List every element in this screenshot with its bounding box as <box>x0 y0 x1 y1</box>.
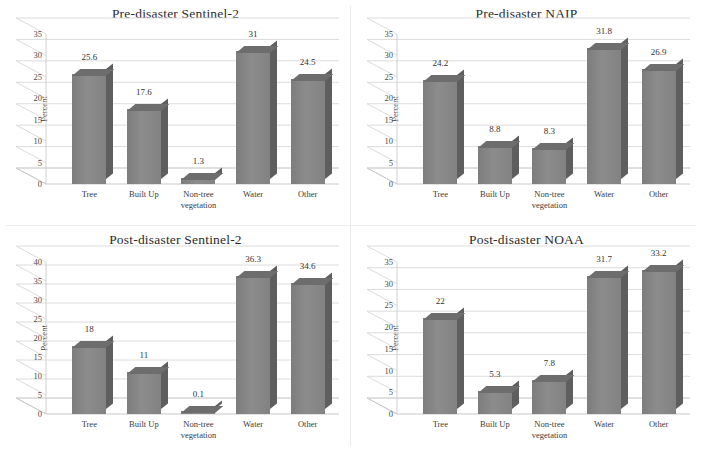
bar-front-face <box>423 80 457 184</box>
y-tick-label: 30 <box>385 279 394 289</box>
x-category-label: Built Up <box>118 189 170 210</box>
bar-3d[interactable]: 33.2 <box>642 270 676 414</box>
bar-side-face <box>325 272 332 409</box>
bar-column[interactable]: 31.7 <box>581 262 627 414</box>
bar-3d[interactable]: 31 <box>236 51 270 184</box>
bar-value-label: 5.3 <box>489 369 500 379</box>
bar-3d[interactable]: 36.3 <box>236 276 270 414</box>
bar-top-face <box>181 406 223 413</box>
bar-3d[interactable]: 7.8 <box>532 380 566 414</box>
y-axis-ticks: 05101520253035 <box>8 34 42 184</box>
bar-side-face <box>621 266 628 409</box>
y-tick-label: 25 <box>34 314 43 324</box>
bar-top-face <box>291 278 333 285</box>
bar-column[interactable]: 22 <box>417 262 463 414</box>
chart-title: Pre-disaster NAIP <box>351 6 702 22</box>
bar-side-face <box>270 41 277 179</box>
y-tick-label: 0 <box>389 409 393 419</box>
chart-title: Post-disaster Sentinel-2 <box>0 232 351 248</box>
bar-3d[interactable]: 24.5 <box>291 79 325 184</box>
y-tick-label: 15 <box>34 115 43 125</box>
bar-column[interactable]: 8.3 <box>526 34 572 184</box>
bar-3d[interactable]: 31.7 <box>587 276 621 414</box>
bar-value-label: 24.2 <box>432 58 448 68</box>
bar-side-face <box>457 70 464 179</box>
y-tick-label: 5 <box>389 158 393 168</box>
bar-front-face <box>127 372 161 414</box>
bar-3d[interactable]: 8.3 <box>532 148 566 184</box>
bar-3d[interactable]: 18 <box>72 346 106 414</box>
bar-series: 225.37.831.733.2 <box>413 262 686 414</box>
bar-column[interactable]: 8.8 <box>472 34 518 184</box>
chart-panel-pre-disaster-sentinel-2: Pre-disaster Sentinel-2 Percent 05101520… <box>0 0 351 226</box>
bar-3d[interactable]: 17.6 <box>127 109 161 184</box>
x-axis-categories: TreeBuilt UpNon-tree vegetationWaterOthe… <box>62 419 335 440</box>
bar-value-label: 8.3 <box>544 126 555 136</box>
chart-title: Pre-disaster Sentinel-2 <box>0 6 351 22</box>
bar-3d[interactable]: 5.3 <box>478 391 512 414</box>
bar-column[interactable]: 31.8 <box>581 34 627 184</box>
bar-value-label: 22 <box>436 296 445 306</box>
x-category-label: Built Up <box>118 419 170 440</box>
y-tick-label: 35 <box>385 257 394 267</box>
bar-3d[interactable]: 8.8 <box>478 146 512 184</box>
bar-column[interactable]: 24.2 <box>417 34 463 184</box>
bar-3d[interactable]: 34.6 <box>291 283 325 414</box>
bar-3d[interactable]: 24.2 <box>423 80 457 184</box>
plot-area: Percent 05101520253035 24.28.88.331.826.… <box>397 34 690 184</box>
x-axis-categories: TreeBuilt UpNon-tree vegetationWaterOthe… <box>62 189 335 210</box>
y-tick-label: 25 <box>385 72 394 82</box>
bar-3d[interactable]: 1.3 <box>181 178 215 184</box>
bar-front-face <box>642 69 676 184</box>
y-tick-label: 5 <box>38 158 42 168</box>
bar-3d[interactable]: 25.6 <box>72 74 106 184</box>
y-tick-label: 5 <box>389 387 393 397</box>
bar-front-face <box>587 48 621 184</box>
bar-value-label: 31.7 <box>596 254 612 264</box>
x-axis-categories: TreeBuilt UpNon-tree vegetationWaterOthe… <box>413 189 686 210</box>
x-category-label: Other <box>633 189 685 210</box>
bar-series: 25.617.61.33124.5 <box>62 34 335 184</box>
bar-side-face <box>676 58 683 179</box>
bar-column[interactable]: 34.6 <box>284 262 330 414</box>
bar-column[interactable]: 5.3 <box>472 262 518 414</box>
x-category-label: Water <box>227 419 279 440</box>
plot-area: Percent 0510152025303540 18110.136.334.6… <box>46 262 339 414</box>
bar-value-label: 8.8 <box>489 124 500 134</box>
bar-column[interactable]: 18 <box>66 262 112 414</box>
bar-front-face <box>478 391 512 414</box>
bar-3d[interactable]: 0.1 <box>181 411 215 414</box>
bar-3d[interactable]: 31.8 <box>587 48 621 184</box>
bar-value-label: 0.1 <box>193 389 204 399</box>
x-axis-categories: TreeBuilt UpNon-tree vegetationWaterOthe… <box>413 419 686 440</box>
x-category-label: Built Up <box>469 189 521 210</box>
bar-column[interactable]: 33.2 <box>635 262 681 414</box>
bar-column[interactable]: 25.6 <box>66 34 112 184</box>
bar-3d[interactable]: 22 <box>423 318 457 414</box>
bar-front-face <box>532 380 566 414</box>
bar-column[interactable]: 7.8 <box>526 262 572 414</box>
x-category-label: Tree <box>63 419 115 440</box>
bar-column[interactable]: 31 <box>230 34 276 184</box>
bar-side-face <box>325 69 332 179</box>
bar-column[interactable]: 17.6 <box>121 34 167 184</box>
bar-column[interactable]: 1.3 <box>175 34 221 184</box>
bar-3d[interactable]: 11 <box>127 372 161 414</box>
bar-front-face <box>587 276 621 414</box>
bar-column[interactable]: 26.9 <box>635 34 681 184</box>
bar-side-face <box>161 98 168 179</box>
bar-3d[interactable]: 26.9 <box>642 69 676 184</box>
bar-column[interactable]: 24.5 <box>284 34 330 184</box>
bar-column[interactable]: 0.1 <box>175 262 221 414</box>
bar-column[interactable]: 36.3 <box>230 262 276 414</box>
y-axis-ticks: 05101520253035 <box>359 34 393 184</box>
bar-front-face <box>642 270 676 414</box>
chart-grid: Pre-disaster Sentinel-2 Percent 05101520… <box>0 0 702 451</box>
bar-column[interactable]: 11 <box>121 262 167 414</box>
x-category-label: Tree <box>414 419 466 440</box>
y-tick-label: 30 <box>34 50 43 60</box>
bar-top-face <box>181 173 223 180</box>
bar-side-face <box>270 266 277 409</box>
bar-value-label: 34.6 <box>300 261 316 271</box>
y-tick-label: 15 <box>34 352 43 362</box>
